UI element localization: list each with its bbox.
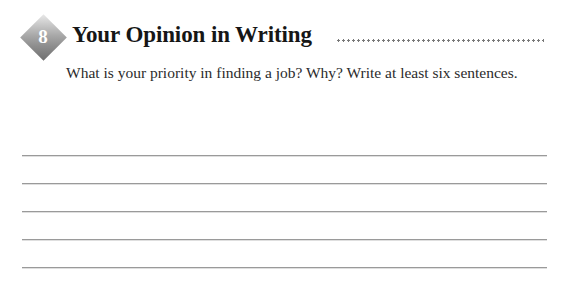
section-number: 8	[20, 14, 66, 60]
section-header: 8 Your Opinion in Writing	[0, 0, 571, 62]
answer-line[interactable]	[22, 155, 547, 157]
answer-line[interactable]	[22, 183, 547, 185]
writing-prompt: What is your priority in finding a job? …	[66, 63, 556, 82]
answer-line[interactable]	[22, 239, 547, 241]
section-number-badge: 8	[20, 14, 66, 60]
answer-lines	[22, 155, 547, 285]
dotted-rule-icon	[336, 39, 544, 42]
section-title: Your Opinion in Writing	[72, 21, 312, 49]
answer-line[interactable]	[22, 267, 547, 269]
answer-line[interactable]	[22, 211, 547, 213]
